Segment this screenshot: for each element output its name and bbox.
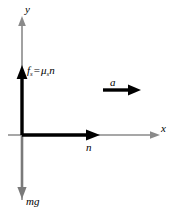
mu-subscript: s (46, 70, 49, 77)
friction-vector (17, 65, 28, 135)
y-axis-arrowhead (18, 16, 26, 26)
acceleration-label: a (110, 77, 116, 88)
normal-force-vector (22, 130, 100, 141)
normal-force-vector-arrowhead (86, 130, 100, 141)
friction-subscript: s (30, 70, 33, 77)
friction-vector-arrowhead (17, 65, 28, 79)
free-body-diagram: y x fs=μsn n mg a (0, 0, 172, 216)
equals-sign: = (33, 64, 41, 76)
normal-symbol-in-expression: n (49, 64, 55, 76)
weight-vector (17, 135, 26, 199)
y-axis-label: y (25, 4, 30, 15)
acceleration-vector-arrowhead (128, 85, 141, 96)
diagram-canvas (0, 0, 172, 216)
x-axis-label: x (161, 123, 166, 134)
weight-label: mg (26, 196, 39, 207)
axis-group (8, 16, 160, 200)
x-axis-arrowhead (150, 131, 160, 139)
normal-force-label: n (86, 142, 92, 153)
acceleration-vector (103, 85, 141, 96)
friction-force-label: fs=μsn (27, 65, 55, 76)
